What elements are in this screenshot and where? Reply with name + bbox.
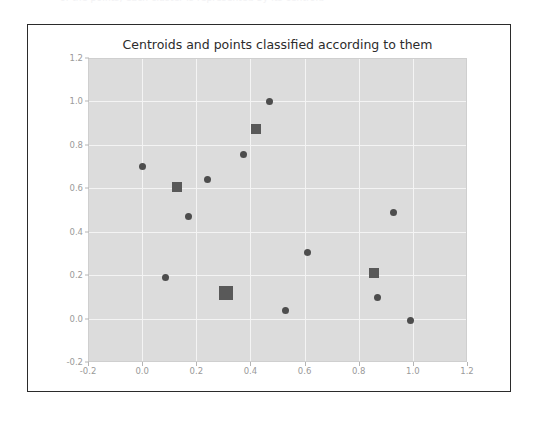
gridline-vertical (413, 58, 414, 362)
x-tick-label: 0.8 (339, 366, 379, 376)
data-point-marker (374, 294, 381, 301)
y-tick-label: 0.6 (36, 183, 88, 193)
y-tick-label: 1.2 (36, 53, 88, 63)
y-tick-mark (85, 318, 89, 319)
gridline-vertical (305, 58, 306, 362)
centroid-marker (251, 124, 261, 134)
y-tick-label: 0.4 (36, 227, 88, 237)
x-tick-label: 1.0 (393, 366, 433, 376)
x-tick-label: 0.0 (122, 366, 162, 376)
figure-frame: Centroids and points classified accordin… (27, 24, 511, 392)
data-point-marker (185, 213, 192, 220)
gridline-vertical (88, 58, 89, 362)
x-tick-mark (142, 362, 143, 366)
x-tick-mark (359, 362, 360, 366)
ghost-caption-text: of the points; each cluster is represent… (60, 0, 324, 3)
x-tick-label: 0.6 (285, 366, 325, 376)
y-tick-mark (85, 275, 89, 276)
data-point-marker (266, 98, 273, 105)
y-tick-mark (85, 58, 89, 59)
chart-title: Centroids and points classified accordin… (88, 37, 467, 52)
y-tick-mark (85, 101, 89, 102)
y-tick-label: 0.8 (36, 140, 88, 150)
y-tick-label: 0.0 (36, 314, 88, 324)
x-tick-label: 0.2 (176, 366, 216, 376)
scatter-plot-area[interactable] (88, 58, 467, 362)
x-tick-mark (250, 362, 251, 366)
x-tick-label: 0.4 (230, 366, 270, 376)
top-ghost-text-strip: of the points; each cluster is represent… (0, 0, 539, 13)
y-tick-label: 1.0 (36, 96, 88, 106)
x-tick-mark (413, 362, 414, 366)
data-point-marker (240, 151, 247, 158)
x-tick-label: 1.2 (447, 366, 487, 376)
gridline-horizontal (88, 275, 467, 276)
gridline-vertical (359, 58, 360, 362)
gridline-vertical (250, 58, 251, 362)
y-tick-mark (85, 144, 89, 145)
gridline-vertical (196, 58, 197, 362)
x-tick-mark (305, 362, 306, 366)
data-point-marker (282, 307, 289, 314)
data-point-marker (204, 176, 211, 183)
data-point-marker (390, 209, 397, 216)
data-point-marker (304, 249, 311, 256)
x-tick-mark (467, 362, 468, 366)
gridline-horizontal (88, 232, 467, 233)
data-point-marker (407, 317, 414, 324)
centroid-marker (172, 182, 182, 192)
x-tick-mark (88, 362, 89, 366)
centroid-marker (219, 286, 233, 300)
y-tick-mark (85, 188, 89, 189)
gridline-horizontal (88, 101, 467, 102)
gridline-vertical (142, 58, 143, 362)
gridline-horizontal (88, 145, 467, 146)
y-tick-label: 0.2 (36, 270, 88, 280)
gridline-horizontal (88, 58, 467, 59)
centroid-marker (369, 268, 379, 278)
data-point-marker (162, 274, 169, 281)
gridline-horizontal (88, 188, 467, 189)
data-point-marker (139, 163, 146, 170)
x-tick-mark (196, 362, 197, 366)
x-tick-label: -0.2 (68, 366, 108, 376)
x-axis-tick-labels: -0.20.00.20.40.60.81.01.2 (88, 366, 467, 382)
y-axis-tick-labels: -0.20.00.20.40.60.81.01.2 (28, 58, 88, 362)
y-tick-mark (85, 231, 89, 232)
